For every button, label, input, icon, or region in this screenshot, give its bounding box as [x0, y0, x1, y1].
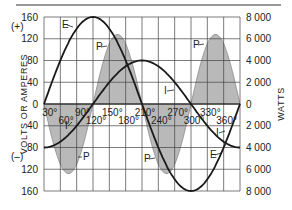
- curve-label: E: [62, 19, 69, 30]
- negative-sign-label: (–): [11, 151, 23, 162]
- left-tick-label: 160: [21, 12, 38, 23]
- right-tick-label: 8 000: [246, 12, 271, 23]
- left-tick-label: 120: [21, 33, 38, 44]
- left-tick-label: 160: [21, 186, 38, 197]
- right-tick-label: 4 000: [246, 142, 271, 153]
- curve-label: P: [83, 151, 90, 162]
- curve-label: I: [164, 85, 167, 96]
- degree-label: 30°: [42, 107, 57, 118]
- degree-label: 360°: [216, 115, 237, 126]
- right-tick-label: 6 000: [246, 164, 271, 175]
- right-tick-label: 2 000: [246, 77, 271, 88]
- left-tick-label: 0: [32, 99, 38, 110]
- y2-axis-title: WATTS: [276, 87, 286, 121]
- positive-sign-label: (+): [11, 21, 24, 32]
- right-tick-label: 4 000: [246, 55, 271, 66]
- right-axis-ticks: 8 0006 0004 0002 00002 0004 0006 0008 00…: [246, 12, 271, 197]
- y-axis-title: VOLTS OR AMPERES: [19, 54, 29, 154]
- right-tick-label: 2 000: [246, 120, 271, 131]
- right-tick-label: 0: [246, 99, 252, 110]
- right-tick-label: 8 000: [246, 186, 271, 197]
- left-tick-label: 120: [21, 164, 38, 175]
- power-waveform-chart: 160120804004080120160 8 0006 0004 0002 0…: [0, 0, 292, 210]
- right-tick-label: 6 000: [246, 33, 271, 44]
- curve-label: I: [216, 127, 219, 138]
- curve-label: I: [65, 120, 68, 131]
